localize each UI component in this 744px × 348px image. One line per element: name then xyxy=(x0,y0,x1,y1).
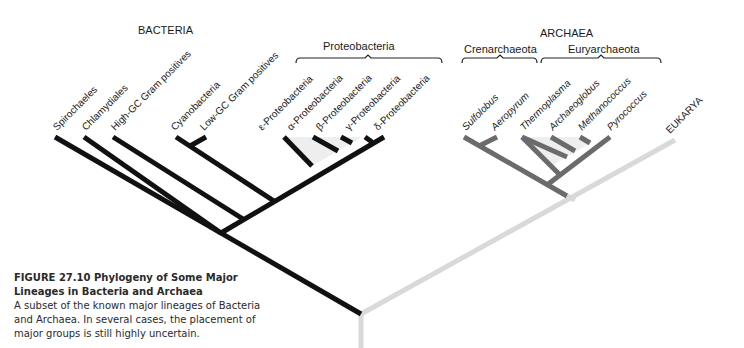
caption-body: A subset of the known major lineages of … xyxy=(14,299,274,341)
eukarya-domain-label: EUKARYA xyxy=(664,94,705,135)
euryarchaeota-group-label: Euryarchaeota xyxy=(568,43,640,55)
caption-title: FIGURE 27.10 Phylogeny of Some Major Lin… xyxy=(14,271,274,299)
proteobacteria-group-label: Proteobacteria xyxy=(323,40,395,52)
archaea-domain-label: ARCHAEA xyxy=(540,27,594,39)
bracket-proteobacteria xyxy=(296,55,442,63)
bacteria-domain-label: BACTERIA xyxy=(138,24,194,36)
taxon-label-thermoplasma: Thermoplasma xyxy=(518,77,573,132)
figure-caption: FIGURE 27.10 Phylogeny of Some Major Lin… xyxy=(14,271,274,341)
bracket-euryarchaeota xyxy=(541,55,661,63)
taxon-label-cyanobacteria: Cyanobacteria xyxy=(169,79,223,133)
eukarya-branch xyxy=(361,140,675,348)
crenarchaeota-group-label: Crenarchaeota xyxy=(464,43,538,55)
taxon-label-delta-proteobacteria: δ-Proteobacteria xyxy=(372,72,432,132)
bracket-crenarchaeota xyxy=(462,55,537,63)
taxon-label-archaeoglobus: Archaeoglobus xyxy=(546,77,602,133)
